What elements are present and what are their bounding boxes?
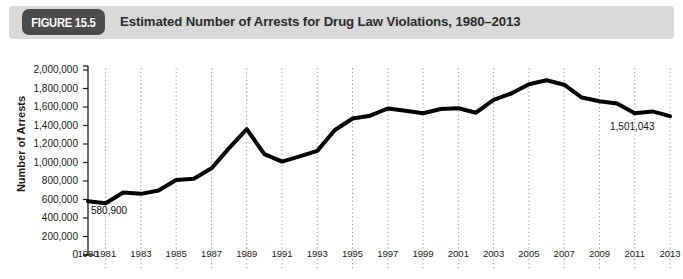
data-point-annotation: 580,900	[91, 205, 127, 216]
figure-number-badge: FIGURE 15.5	[22, 9, 105, 35]
data-point-annotation: 1,501,043	[610, 121, 655, 132]
figure-title: Estimated Number of Arrests for Drug Law…	[120, 14, 521, 29]
chart-area: Number of Arrests 2,000,0001,800,0001,60…	[0, 46, 683, 279]
figure-number-label: FIGURE 15.5	[31, 15, 95, 30]
data-series-line	[88, 80, 670, 203]
figure-root: FIGURE 15.5 Estimated Number of Arrests …	[0, 0, 683, 279]
line-plot	[0, 46, 683, 279]
